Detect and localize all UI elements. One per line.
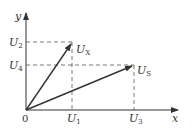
vector-diagram: y x 0 U2 U4 U1 U3 UX US (0, 0, 192, 133)
vector-us (26, 66, 132, 110)
y-tick-u4: U4 (9, 59, 23, 73)
x-axis-label: x (172, 112, 179, 125)
x-tick-u3: U3 (129, 112, 143, 126)
origin-label: 0 (22, 113, 28, 124)
vector-ux-label: UX (76, 43, 90, 57)
y-axis-label: y (14, 10, 22, 23)
x-tick-u1: U1 (67, 112, 81, 126)
vector-us-label: US (137, 64, 151, 78)
y-tick-u2: U2 (9, 36, 23, 50)
